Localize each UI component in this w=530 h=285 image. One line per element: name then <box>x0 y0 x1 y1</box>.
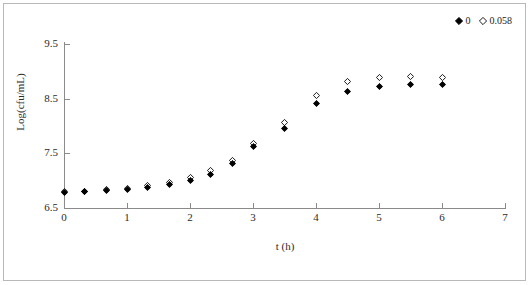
data-point <box>376 74 383 81</box>
x-axis-tick <box>442 203 443 208</box>
x-axis-tick <box>316 203 317 208</box>
data-point <box>344 78 351 85</box>
data-point <box>313 100 320 107</box>
x-axis-tick-label: 1 <box>117 212 137 223</box>
legend: 00.058 <box>455 16 513 26</box>
y-axis-title: Log(cfu/mL) <box>14 52 26 152</box>
scatter-plot: Log(cfu/mL) t (h) 6.57.58.59.501234567 0… <box>0 0 530 285</box>
open-diamond-icon <box>479 17 487 25</box>
x-axis-tick-label: 3 <box>243 212 263 223</box>
data-point <box>281 125 288 132</box>
data-point <box>344 88 351 95</box>
x-axis-tick <box>379 203 380 208</box>
data-point <box>313 92 320 99</box>
x-axis-tick-label: 0 <box>54 212 74 223</box>
x-axis-tick-label: 2 <box>180 212 200 223</box>
y-axis-line <box>64 42 65 209</box>
x-axis-tick <box>64 203 65 208</box>
x-axis-tick-label: 7 <box>495 212 515 223</box>
data-point <box>407 73 414 80</box>
data-point <box>81 188 88 195</box>
y-axis-tick-label: 8.5 <box>26 93 58 104</box>
x-axis-title: t (h) <box>64 240 506 252</box>
x-axis-tick <box>127 203 128 208</box>
x-axis-tick <box>253 203 254 208</box>
data-point <box>407 81 414 88</box>
y-axis-tick <box>65 153 70 154</box>
data-point <box>166 181 173 188</box>
y-axis-tick-label: 7.5 <box>26 147 58 158</box>
data-point <box>439 81 446 88</box>
x-axis-tick-label: 5 <box>369 212 389 223</box>
figure: Log(cfu/mL) t (h) 6.57.58.59.501234567 0… <box>0 0 530 285</box>
legend-entry: 0.058 <box>479 16 513 26</box>
y-axis-tick-label: 9.5 <box>26 38 58 49</box>
y-axis-tick <box>65 99 70 100</box>
data-point <box>61 189 68 196</box>
data-point <box>144 184 151 191</box>
x-axis-line <box>64 208 506 209</box>
filled-diamond-icon <box>455 17 463 25</box>
data-point <box>103 187 110 194</box>
legend-label: 0 <box>466 16 471 26</box>
x-axis-tick <box>190 203 191 208</box>
y-axis-tick <box>65 44 70 45</box>
data-point <box>376 83 383 90</box>
legend-entry: 0 <box>455 16 471 26</box>
data-point <box>207 171 214 178</box>
x-axis-tick-label: 4 <box>306 212 326 223</box>
data-point <box>187 177 194 184</box>
data-point <box>124 186 131 193</box>
data-point <box>250 143 257 150</box>
y-axis-tick <box>65 208 70 209</box>
x-axis-tick <box>505 203 506 208</box>
legend-label: 0.058 <box>490 16 513 26</box>
data-point <box>229 160 236 167</box>
x-axis-tick-label: 6 <box>432 212 452 223</box>
